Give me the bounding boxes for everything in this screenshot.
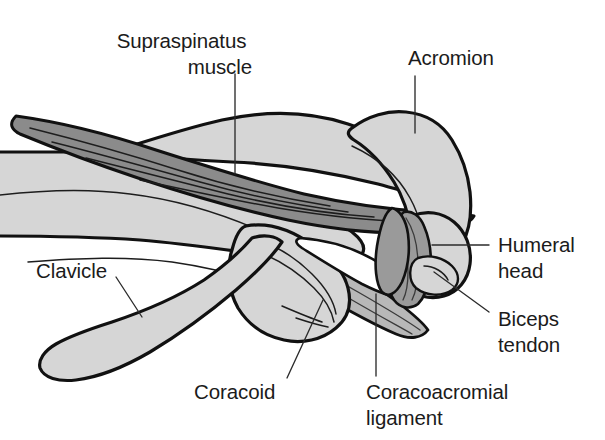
label-supraspinatus: Supraspinatus muscle <box>117 29 252 78</box>
label-humeral-head-line1: Humeral <box>498 233 575 256</box>
label-biceps-tendon-line2: tendon <box>498 333 560 356</box>
anatomy-artwork <box>0 112 474 381</box>
label-coracoid: Coracoid <box>194 380 275 403</box>
label-supraspinatus-line2: muscle <box>188 55 252 78</box>
label-biceps-tendon: Biceps tendon <box>498 307 565 356</box>
anatomy-diagram: Supraspinatus muscle Acromion Humeral he… <box>0 0 605 440</box>
label-supraspinatus-line1: Supraspinatus <box>117 29 247 52</box>
leader-clavicle <box>116 277 142 317</box>
label-coracoacromial-ligament: Coracoacromial ligament <box>366 380 514 429</box>
diagram-canvas: Supraspinatus muscle Acromion Humeral he… <box>0 0 605 440</box>
label-acromion: Acromion <box>408 46 494 69</box>
label-clavicle-line1: Clavicle <box>36 259 107 282</box>
label-coracoid-line1: Coracoid <box>194 380 275 403</box>
label-coracoacromial-ligament-line1: Coracoacromial <box>366 380 508 403</box>
label-coracoacromial-ligament-line2: ligament <box>366 406 443 429</box>
label-humeral-head-line2: head <box>498 259 543 282</box>
label-biceps-tendon-line1: Biceps <box>498 307 559 330</box>
label-humeral-head: Humeral head <box>498 233 580 282</box>
label-clavicle: Clavicle <box>36 259 107 282</box>
label-acromion-line1: Acromion <box>408 46 494 69</box>
